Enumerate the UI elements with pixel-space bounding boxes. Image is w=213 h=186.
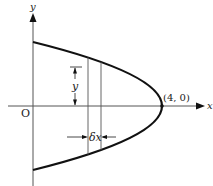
y-axis-arrow-icon: [30, 13, 37, 22]
vertex-point: [160, 104, 164, 108]
dx-arrow-right-icon: [101, 135, 107, 139]
x-axis-arrow-icon: [196, 103, 205, 110]
x-axis-label: x: [207, 100, 213, 111]
diagram-canvas: y δx y x O (4, 0): [0, 0, 213, 186]
y-dimension-arrow-down-icon: [73, 100, 77, 106]
dx-arrow-left-icon: [82, 135, 88, 139]
y-dimension-arrow-up-icon: [73, 68, 77, 74]
y-axis-label: y: [29, 1, 36, 12]
strip-width-label: δx: [89, 131, 103, 144]
origin-label: O: [21, 107, 30, 120]
vertex-label: (4, 0): [163, 92, 190, 103]
strip-height-label: y: [71, 80, 79, 93]
